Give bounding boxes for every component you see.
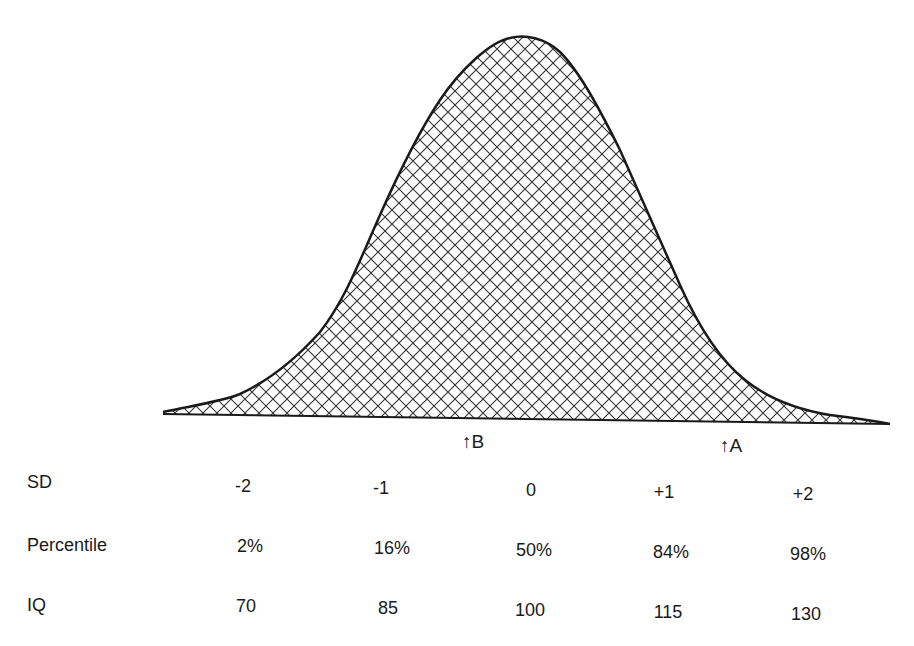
percentile-cell: 98% — [790, 544, 826, 565]
iq-cell: 115 — [654, 602, 683, 623]
percentile-cell: 16% — [374, 538, 410, 559]
row-label-percentile: Percentile — [27, 535, 107, 556]
marker-b: ↑B — [462, 432, 484, 451]
iq-cell: 100 — [515, 600, 545, 621]
sd-cell: +1 — [654, 482, 675, 503]
row-label-sd: SD — [27, 472, 52, 493]
percentile-cell: 2% — [237, 536, 263, 557]
sd-cell: -1 — [373, 478, 389, 499]
arrow-up-icon: ↑ — [720, 435, 730, 456]
percentile-cell: 84% — [653, 542, 689, 563]
iq-cell: 70 — [236, 596, 256, 617]
bell-curve — [0, 0, 914, 646]
marker-a: ↑A — [720, 436, 742, 455]
row-label-iq: IQ — [27, 595, 46, 616]
percentile-cell: 50% — [516, 540, 552, 561]
sd-cell: +2 — [793, 484, 814, 505]
iq-cell: 85 — [378, 598, 398, 619]
curve-area — [163, 37, 890, 424]
marker-a-label: A — [730, 435, 743, 456]
sd-cell: 0 — [526, 480, 536, 501]
arrow-up-icon: ↑ — [462, 431, 472, 452]
sd-cell: -2 — [235, 476, 251, 497]
iq-cell: 130 — [791, 604, 821, 625]
marker-b-label: B — [472, 431, 485, 452]
